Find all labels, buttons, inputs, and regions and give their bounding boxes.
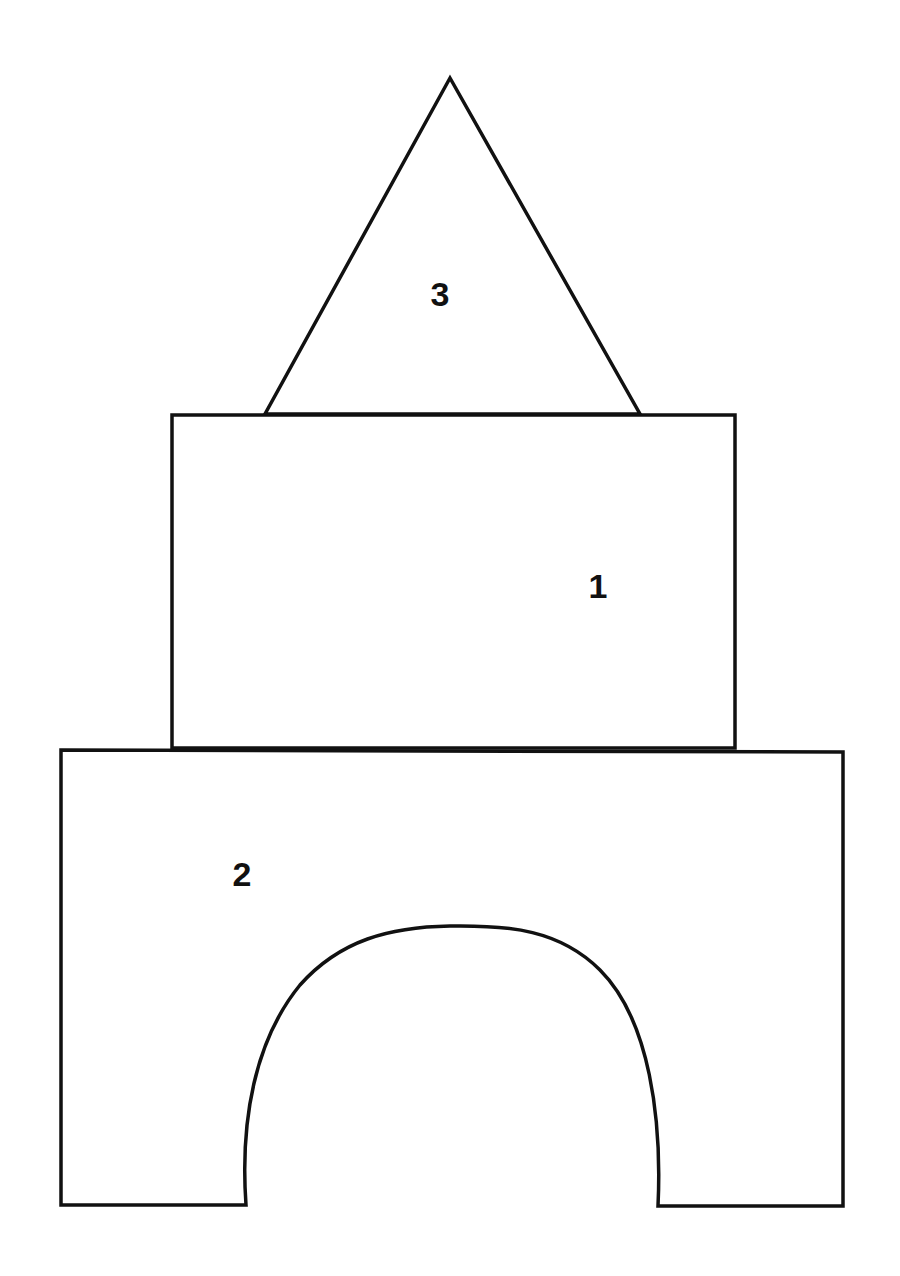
shape-label-2: 2 [233,855,252,893]
triangle-shape-3 [265,78,640,414]
rectangle-shape-1 [172,415,735,748]
block-tower-diagram: 1 2 3 [0,0,900,1276]
arch-block-shape-2 [61,750,843,1206]
shape-label-3: 3 [431,275,450,313]
shape-label-1: 1 [589,567,608,605]
